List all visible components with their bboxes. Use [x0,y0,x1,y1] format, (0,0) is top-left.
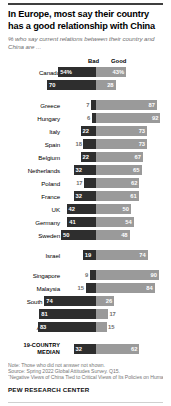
bar-segment-good: 62 [96,178,139,188]
bar-value-bad: 70 [47,80,57,90]
bar-segment-good: 84 [96,283,155,293]
bar-track: 787 [8,100,163,110]
bar-value-good: 62 [129,178,139,188]
bar-track: 8117 [8,309,163,319]
bar-row: Sweden5048 [8,229,163,242]
bar-track: 1873 [8,139,163,149]
bar-value-good: 15 [108,322,114,332]
bar-value-bad: 32 [74,165,84,175]
bar-row: South Korea7426 [8,295,163,308]
bar-track: 8315 [8,322,163,332]
bar-track: 3265 [8,165,163,175]
bar-value-bad: 50 [61,230,71,240]
group-separator [8,262,163,269]
bar-row: France3261 [8,190,163,203]
bar-value-bad: 74 [44,296,54,306]
bar-value-bad: 6 [87,113,90,123]
bar-segment-good: 65 [96,165,142,175]
bar-row: Canada54%43% [8,66,163,79]
bar-segment-good: 67 [96,152,143,162]
bar-value-good: 65 [131,165,141,175]
bar-value-bad: 32 [74,344,84,354]
bar-row: Israel1974 [8,249,163,262]
bar-value-good: 87 [146,100,156,110]
bar-track: 4250 [8,204,163,214]
bar-value-good: 67 [132,152,142,162]
bar-segment-bad: 22 [81,126,96,136]
bar-value-good: 28 [105,80,115,90]
bar-track: 4154 [8,217,163,227]
bar-value-good: 54 [123,217,133,227]
bar-value-bad: 32 [74,191,84,201]
bar-row: Poland1762 [8,177,163,190]
bar-row: Malaysia1584 [8,282,163,295]
bar-segment-good: 48 [96,230,130,240]
bar-segment-good: 26 [96,296,114,306]
bar-segment-bad: 18 [83,139,96,149]
bar-segment-bad: 32 [74,344,96,354]
bar-track: 7028 [8,80,163,90]
bar-segment-bad: 41 [67,217,96,227]
bar-value-bad: 22 [81,152,91,162]
bar-track: 3262 [8,344,163,354]
bar-segment-bad: 17 [84,178,96,188]
bar-value-bad: 22 [81,126,91,136]
bar-segment-bad: 81 [39,309,96,319]
bar-value-good: 43% [110,67,126,77]
bar-track: 2273 [8,126,163,136]
bar-row: Spain1873 [8,138,163,151]
bar-segment-good: 28 [96,80,116,90]
bottom-divider [8,402,163,403]
bar-segment-good: 61 [96,191,139,201]
bar-track: 5048 [8,230,163,240]
bar-segment-bad: 74 [44,296,96,306]
bar-segment-bad: 32 [74,191,96,201]
bar-row: Germany4154 [8,216,163,229]
bar-segment-bad: 70 [47,80,96,90]
bar-value-good: 50 [121,204,131,214]
bar-segment-good: 54 [96,217,134,227]
bar-row: Australia8315 [8,321,163,334]
bar-segment-good: 90 [96,270,159,280]
bar-value-good: 74 [137,250,147,260]
bar-value-bad: 17 [76,178,82,188]
bar-value-good: 61 [128,191,138,201]
bar-value-good: 92 [150,113,160,123]
bar-value-bad: 83 [38,322,48,332]
bar-track: 54%43% [8,67,163,77]
chart-title: In Europe, most say their country has a … [8,5,163,32]
bar-row: Hungary692 [8,112,163,125]
pew-chart-figure: In Europe, most say their country has a … [0,0,171,406]
bar-segment-bad: 54% [58,67,96,77]
bar-rows: Canada54%43%U.S.7028Greece787Hungary692I… [8,66,163,356]
bar-value-bad: 18 [75,139,81,149]
bar-segment-bad: 83 [38,322,96,332]
bar-value-good: 26 [104,296,114,306]
chart-subtitle: % who say current relations between thei… [8,32,163,51]
bar-segment-good: 15 [96,322,107,332]
legend-label-bad: Bad [88,58,99,64]
bar-row: Singapore990 [8,269,163,282]
footnote-report: “Negative Views of China Tied to Critica… [8,374,163,380]
bar-value-bad: 81 [39,309,49,319]
bar-track: 3261 [8,191,163,201]
bar-value-good: 84 [144,283,154,293]
bar-segment-good: 73 [96,139,147,149]
bar-row: Belgium2267 [8,151,163,164]
bar-value-good: 48 [119,230,129,240]
bar-value-good: 62 [129,344,139,354]
bar-value-bad: 7 [86,100,89,110]
bar-value-bad: 42 [67,204,77,214]
pew-research-center-brand: PEW RESEARCH CENTER [8,386,163,393]
bar-value-bad: 19 [83,250,93,260]
bar-row: Italy2273 [8,125,163,138]
bar-row: Greece787 [8,99,163,112]
bar-value-bad: 15 [78,283,84,293]
bar-segment-bad: 15 [86,283,97,293]
bar-segment-good: 17 [96,309,108,319]
group-separator [8,92,163,99]
bar-value-good: 17 [109,309,115,319]
bar-track: 7426 [8,296,163,306]
bar-segment-good: 73 [96,126,147,136]
legend-label-good: Good [111,58,126,64]
